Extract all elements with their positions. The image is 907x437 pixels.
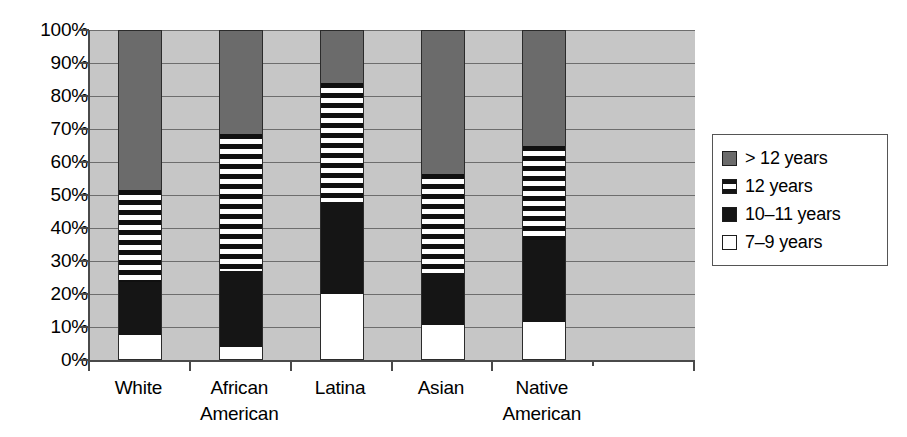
striped-swatch-icon — [722, 179, 737, 194]
y-axis-tick-label: 90% — [14, 53, 88, 72]
x-axis-tick-mark — [592, 362, 594, 366]
x-axis-label-line1: Native — [515, 377, 568, 398]
x-axis-category-label: NativeAmerican — [491, 375, 592, 427]
y-axis-tick-label: 30% — [14, 251, 88, 270]
stacked-bar[interactable] — [320, 30, 364, 360]
white-swatch-icon — [722, 235, 737, 250]
bar-segment[interactable] — [118, 190, 162, 282]
bar-segment[interactable] — [118, 30, 162, 190]
x-axis-category-label: AfricanAmerican — [189, 375, 290, 427]
y-axis-tick-label: 50% — [14, 185, 88, 204]
bar-segment[interactable] — [421, 174, 465, 273]
x-axis-tick-mark — [693, 362, 695, 371]
bar-segment[interactable] — [320, 202, 364, 294]
gray-swatch-icon — [722, 151, 737, 166]
bar-segment[interactable] — [320, 294, 364, 360]
bar-segment[interactable] — [522, 322, 566, 360]
y-axis-tick-label: 60% — [14, 152, 88, 171]
x-axis-tick-mark — [491, 362, 493, 371]
x-axis-label-line1: Latina — [315, 377, 366, 398]
x-axis-tick-mark — [290, 362, 292, 371]
legend-item-label: 12 years — [745, 176, 812, 197]
bar-segment[interactable] — [421, 30, 465, 174]
x-axis-category-label: White — [88, 375, 189, 401]
x-axis-label-line1: White — [115, 377, 163, 398]
plot-area — [88, 30, 695, 360]
bar-segment[interactable] — [522, 146, 566, 240]
legend-item-label: 10–11 years — [745, 204, 841, 225]
y-axis-tick-label: 10% — [14, 317, 88, 336]
x-axis-label-line1: African — [210, 377, 268, 398]
x-axis-label-line1: Asian — [418, 377, 465, 398]
x-axis-tick-mark — [88, 362, 90, 371]
black-swatch-icon — [722, 207, 737, 222]
legend-item-label: > 12 years — [745, 148, 828, 169]
y-axis: 100%90%80%70%60%50%40%30%20%10%0% — [0, 0, 88, 437]
stacked-bar[interactable] — [522, 30, 566, 360]
x-axis-label-line2: American — [491, 401, 592, 427]
bar-slot — [292, 30, 393, 360]
bar-segment[interactable] — [118, 335, 162, 360]
bar-segment[interactable] — [421, 325, 465, 360]
legend-item[interactable]: 12 years — [722, 172, 877, 200]
bar-slot — [191, 30, 292, 360]
bar-slot — [90, 30, 191, 360]
legend-item-label: 7–9 years — [745, 232, 822, 253]
y-axis-tick-label: 70% — [14, 119, 88, 138]
stacked-bar[interactable] — [219, 30, 263, 360]
bar-segment[interactable] — [522, 240, 566, 323]
legend-item[interactable]: 7–9 years — [722, 228, 877, 256]
y-axis-tick-label: 20% — [14, 284, 88, 303]
legend-item[interactable]: > 12 years — [722, 144, 877, 172]
bar-segment[interactable] — [118, 282, 162, 335]
bar-segment[interactable] — [219, 134, 263, 271]
y-axis-tick-label: 40% — [14, 218, 88, 237]
legend: > 12 years12 years10–11 years7–9 years — [712, 134, 888, 266]
y-axis-tick-label: 0% — [14, 350, 88, 369]
stacked-bar[interactable] — [421, 30, 465, 360]
x-axis-category-label: Asian — [391, 375, 492, 401]
bar-segment[interactable] — [320, 83, 364, 202]
stacked-bar-chart: 100%90%80%70%60%50%40%30%20%10%0% > 12 y… — [0, 0, 907, 437]
bar-slot — [393, 30, 494, 360]
stacked-bar[interactable] — [118, 30, 162, 360]
bar-segment[interactable] — [320, 30, 364, 83]
x-axis-category-label: Latina — [290, 375, 391, 401]
bar-slot — [493, 30, 594, 360]
bar-segment[interactable] — [421, 273, 465, 326]
y-axis-tick-label: 80% — [14, 86, 88, 105]
legend-item[interactable]: 10–11 years — [722, 200, 877, 228]
bar-segment[interactable] — [522, 30, 566, 146]
x-axis-tick-mark — [189, 362, 191, 371]
x-axis-label-line2: American — [189, 401, 290, 427]
bar-segment[interactable] — [219, 347, 263, 360]
bar-segment[interactable] — [219, 30, 263, 134]
bar-segment[interactable] — [219, 271, 263, 347]
y-axis-tick-label: 100% — [14, 20, 88, 39]
x-axis-tick-mark — [391, 362, 393, 371]
